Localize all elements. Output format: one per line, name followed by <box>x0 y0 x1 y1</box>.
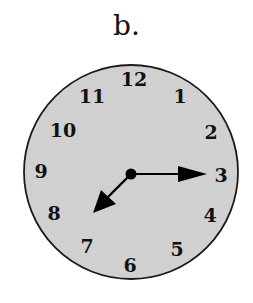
numeral-11: 11 <box>79 85 105 107</box>
numeral-1: 1 <box>173 85 186 107</box>
numeral-12: 12 <box>121 68 147 90</box>
analog-clock: 121234567891011 <box>0 0 253 303</box>
numeral-5: 5 <box>170 238 183 260</box>
numeral-3: 3 <box>214 164 227 186</box>
center-pivot <box>126 169 137 180</box>
numeral-6: 6 <box>123 254 136 276</box>
numeral-8: 8 <box>47 202 60 224</box>
numeral-2: 2 <box>204 121 217 143</box>
numeral-9: 9 <box>34 160 47 182</box>
numeral-7: 7 <box>80 235 93 257</box>
numeral-4: 4 <box>203 204 216 226</box>
numeral-10: 10 <box>50 119 76 141</box>
